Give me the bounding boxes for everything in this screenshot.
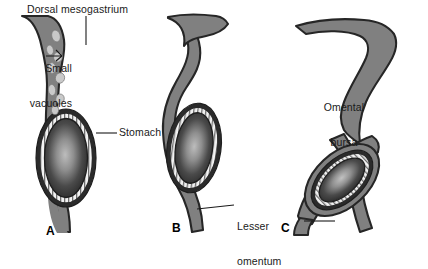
panel-letter-b: B [172,222,181,234]
label-omental-bursa: Omental bursa [313,79,375,171]
panel-letter-c: C [281,222,290,234]
leader-lesser-omentum [197,205,234,209]
label-omental-bursa-line1: Omental [313,102,375,114]
label-lesser-omentum-line2: omentum [237,256,303,268]
label-small-vacuoles: Small vacuoles [6,40,72,132]
label-omental-bursa-line2: bursa [313,137,375,149]
label-dorsal-mesogastrium: Dorsal mesogastrium [27,4,128,16]
panel-letter-a: A [46,225,55,237]
label-lesser-omentum-line1: Lesser [237,221,303,233]
label-small-vacuoles-line2: vacuoles [6,98,72,110]
label-lesser-omentum: Lesser omentum [237,198,303,269]
label-stomach: Stomach [119,127,161,139]
label-small-vacuoles-line1: Small [6,63,72,75]
panel-b-graphic [161,15,228,232]
